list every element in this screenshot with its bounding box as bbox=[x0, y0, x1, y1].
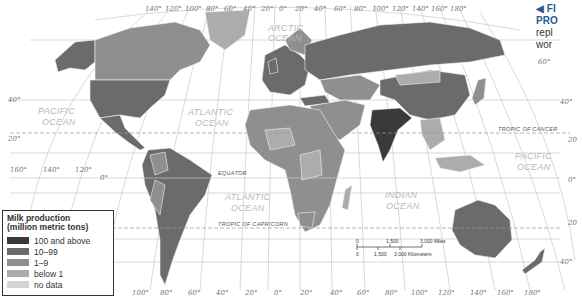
svg-text:20°: 20° bbox=[294, 5, 307, 13]
svg-text:140°: 140° bbox=[43, 166, 60, 174]
svg-text:40°: 40° bbox=[559, 98, 572, 106]
equator-label: EQUATOR bbox=[218, 170, 247, 176]
svg-text:40°: 40° bbox=[329, 289, 342, 297]
ocean-label-atlantic-n-1: ATLANTIC bbox=[187, 107, 233, 117]
scale-km-3000: 3,000 Kilometers bbox=[394, 251, 432, 257]
svg-text:80°: 80° bbox=[206, 5, 218, 13]
figure-label: ◀ FI bbox=[536, 3, 582, 15]
svg-text:120°: 120° bbox=[438, 289, 455, 297]
ocean-label-pacific-e-2: OCEAN bbox=[517, 162, 551, 172]
scale-miles-1500: 1,500 bbox=[386, 238, 399, 244]
ocean-label-indian-1: INDIAN bbox=[385, 190, 418, 200]
tropic-of-capricorn-label: TROPIC OF CAPRICORN bbox=[218, 221, 288, 227]
svg-text:40°: 40° bbox=[242, 5, 255, 13]
ocean-label-arctic-2: OCEAN bbox=[268, 33, 302, 43]
svg-text:100°: 100° bbox=[411, 289, 428, 297]
legend-item: 10–99 bbox=[7, 246, 109, 257]
scale-miles-3000: 3,000 Miles bbox=[420, 238, 446, 244]
svg-text:60°: 60° bbox=[334, 5, 346, 13]
svg-text:60°: 60° bbox=[188, 289, 200, 297]
svg-text:20°: 20° bbox=[7, 135, 20, 143]
legend-swatch bbox=[7, 281, 29, 288]
legend-title: Milk production (million metric tons) bbox=[7, 214, 109, 232]
svg-text:40°: 40° bbox=[7, 96, 20, 104]
tropic-of-cancer-label: TROPIC OF CANCER bbox=[498, 126, 557, 132]
svg-text:180°: 180° bbox=[450, 5, 467, 13]
svg-text:160°: 160° bbox=[10, 166, 27, 174]
svg-text:120°: 120° bbox=[165, 5, 182, 13]
figure-caption: ◀ FI PRO repl wor bbox=[536, 3, 582, 51]
svg-text:100°: 100° bbox=[132, 289, 149, 297]
legend-item: below 1 bbox=[7, 268, 109, 279]
svg-text:20°: 20° bbox=[299, 289, 312, 297]
svg-text:60°: 60° bbox=[538, 58, 550, 66]
caption-heading: PRO bbox=[536, 15, 582, 27]
svg-text:40°: 40° bbox=[313, 5, 326, 13]
scale-km-1500: 1,500 bbox=[374, 251, 387, 257]
svg-text:20°: 20° bbox=[244, 289, 257, 297]
map-legend: Milk production (million metric tons) 10… bbox=[2, 210, 114, 296]
legend-item: no data bbox=[7, 279, 109, 290]
ocean-label-atlantic-s-1: ATLANTIC bbox=[224, 192, 270, 202]
svg-text:60°: 60° bbox=[224, 5, 236, 13]
scale-km-0: 0 bbox=[356, 251, 359, 257]
legend-swatch bbox=[7, 248, 29, 255]
svg-text:140°: 140° bbox=[145, 5, 162, 13]
svg-text:120°: 120° bbox=[75, 166, 92, 174]
legend-item: 100 and above bbox=[7, 235, 109, 246]
svg-text:0°: 0° bbox=[568, 176, 576, 184]
svg-text:100°: 100° bbox=[372, 5, 389, 13]
svg-text:80°: 80° bbox=[354, 5, 366, 13]
svg-text:180°: 180° bbox=[524, 289, 541, 297]
top-longitude-labels: 140° 120° 100° 80° 60° 40° 20° 0° 20° 40… bbox=[145, 5, 467, 13]
svg-text:0°: 0° bbox=[100, 174, 108, 182]
legend-swatch bbox=[7, 259, 29, 266]
svg-text:160°: 160° bbox=[497, 289, 514, 297]
ocean-label-pacific-e-1: PACIFIC bbox=[515, 151, 552, 161]
svg-text:100°: 100° bbox=[185, 5, 202, 13]
bottom-longitude-labels: 100° 80° 60° 40° 20° 0° 20° 40° 60° 80° … bbox=[132, 289, 541, 297]
svg-text:0°: 0° bbox=[274, 289, 282, 297]
ocean-label-atlantic-s-2: OCEAN bbox=[231, 203, 265, 213]
svg-text:80°: 80° bbox=[160, 289, 172, 297]
svg-text:80°: 80° bbox=[385, 289, 397, 297]
ocean-label-atlantic-n-2: OCEAN bbox=[195, 118, 229, 128]
svg-text:20: 20 bbox=[567, 219, 577, 227]
svg-text:60°: 60° bbox=[357, 289, 369, 297]
svg-text:140°: 140° bbox=[412, 5, 429, 13]
scale-miles-0: 0 bbox=[356, 238, 359, 244]
svg-text:120°: 120° bbox=[392, 5, 409, 13]
ocean-label-pacific-w-1: PACIFIC bbox=[38, 106, 75, 116]
svg-text:40°: 40° bbox=[215, 289, 228, 297]
legend-swatch bbox=[7, 270, 29, 277]
ocean-label-arctic-1: ARCTIC bbox=[267, 23, 303, 33]
svg-text:140°: 140° bbox=[470, 289, 487, 297]
legend-item: 1–9 bbox=[7, 257, 109, 268]
svg-text:20: 20 bbox=[567, 136, 577, 144]
legend-swatch bbox=[7, 237, 29, 244]
svg-text:0°: 0° bbox=[279, 5, 287, 13]
ocean-label-pacific-w-2: OCEAN bbox=[42, 117, 76, 127]
caption-line-1: repl bbox=[536, 27, 582, 39]
svg-text:160°: 160° bbox=[431, 5, 448, 13]
scale-bar: 0 1,500 3,000 Miles 0 1,500 3,000 Kilome… bbox=[352, 236, 462, 260]
ocean-label-indian-2: OCEAN bbox=[386, 201, 420, 211]
svg-text:20°: 20° bbox=[260, 5, 273, 13]
svg-text:40°: 40° bbox=[559, 258, 572, 266]
caption-line-2: wor bbox=[536, 39, 582, 51]
